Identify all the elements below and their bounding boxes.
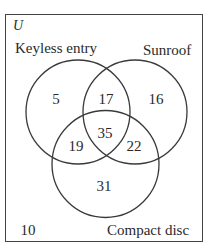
region-all-three: 35 (98, 126, 113, 141)
region-none: 10 (21, 223, 36, 238)
set-label-keyless-entry: Keyless entry (15, 41, 97, 56)
universe-label: U (13, 19, 23, 33)
region-sunroof-only: 16 (149, 92, 164, 107)
set-label-compact-disc: Compact disc (107, 223, 189, 238)
set-label-sunroof: Sunroof (143, 43, 191, 58)
region-cd-only: 31 (97, 179, 112, 194)
region-sunroof-cd: 22 (127, 139, 142, 154)
region-keyless-sunroof: 17 (99, 92, 114, 107)
region-keyless-only: 5 (52, 92, 60, 107)
region-keyless-cd: 19 (69, 139, 84, 154)
